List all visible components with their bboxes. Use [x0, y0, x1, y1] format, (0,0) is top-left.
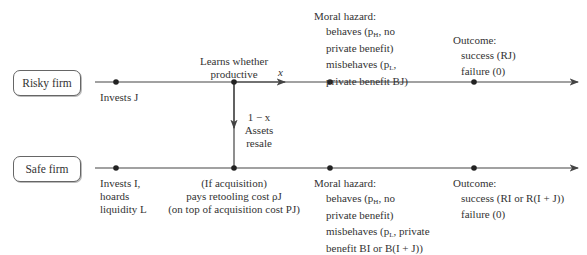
safe-moral-hazard-dot: [327, 165, 333, 171]
risky-invests-label: Invests J: [100, 91, 138, 104]
risky-moral-hazard: Moral hazard: behaves (pH, no private be…: [314, 10, 408, 88]
risky-firm-box: Risky firm: [13, 70, 81, 96]
risky-firm-label: Risky firm: [22, 77, 72, 89]
safe-outcome: Outcome: success (RI or R(I + J)) failur…: [453, 177, 564, 221]
safe-acquisition-dot: [231, 165, 237, 171]
safe-firm-box: Safe firm: [13, 156, 81, 182]
risky-outcome: Outcome: success (RJ) failure (0): [453, 34, 516, 78]
x-label: x: [278, 66, 283, 78]
assets-resale-label: 1 − x Assets resale: [240, 111, 278, 150]
learns-label: Learns whether productive: [199, 55, 269, 81]
safe-invests-label: Invests I, hoards liquidity L: [100, 177, 147, 216]
acquisition-label: (If acquisition) pays retooling cost ρJ …: [164, 177, 304, 216]
safe-firm-label: Safe firm: [25, 163, 68, 175]
safe-invest-dot: [113, 165, 119, 171]
safe-outcome-dot: [471, 165, 477, 171]
risky-invest-dot: [113, 79, 119, 85]
safe-moral-hazard: Moral hazard: behaves (pH, no private be…: [314, 177, 430, 255]
risky-outcome-dot: [471, 79, 477, 85]
